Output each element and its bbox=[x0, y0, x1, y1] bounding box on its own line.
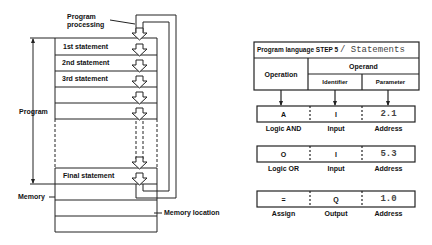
row3-operation: = bbox=[257, 191, 310, 207]
final-statement: Final statement bbox=[63, 172, 114, 180]
program-processing-label: Program processing bbox=[67, 13, 104, 29]
row2-parameter-desc: Address bbox=[362, 163, 415, 173]
row2-identifier: I bbox=[310, 146, 362, 162]
processing-label-line1: Program bbox=[67, 13, 104, 21]
statement-1: 1st statement bbox=[63, 43, 108, 51]
row3-identifier-desc: Output bbox=[310, 208, 362, 218]
title-suffix: / Statements bbox=[340, 45, 405, 55]
header-operand: Operand bbox=[308, 58, 419, 74]
row1-identifier: I bbox=[310, 106, 362, 122]
row3-parameter-desc: Address bbox=[362, 208, 415, 218]
header-parameter: Parameter bbox=[362, 74, 419, 90]
row1-parameter: 2.1 bbox=[362, 106, 415, 122]
memory-location-label: Memory location bbox=[164, 209, 220, 217]
program-label: Program bbox=[19, 108, 48, 116]
row2-operation-desc: Logic OR bbox=[257, 163, 310, 173]
row1-parameter-desc: Address bbox=[362, 123, 415, 133]
row3-operation-desc: Assign bbox=[257, 208, 310, 218]
statement-2: 2nd statement bbox=[62, 59, 109, 67]
row1-operation: A bbox=[257, 106, 310, 122]
row1-operation-desc: Logic AND bbox=[257, 123, 310, 133]
row2-identifier-desc: Input bbox=[310, 163, 362, 173]
row1-identifier-desc: Input bbox=[310, 123, 362, 133]
row3-parameter: 1.0 bbox=[362, 191, 415, 207]
statement-3: 3rd statement bbox=[62, 75, 108, 83]
table-title: Program language STEP 5 / Statements bbox=[257, 46, 405, 54]
memory-label: Memory bbox=[18, 193, 45, 201]
header-operation: Operation bbox=[254, 58, 308, 90]
title-prefix: Program language STEP 5 bbox=[257, 46, 338, 53]
row2-operation: O bbox=[257, 146, 310, 162]
row2-parameter: 5.3 bbox=[362, 146, 415, 162]
header-identifier: Identifier bbox=[308, 74, 362, 90]
processing-label-line2: processing bbox=[67, 21, 104, 29]
row3-identifier: Q bbox=[310, 191, 362, 207]
